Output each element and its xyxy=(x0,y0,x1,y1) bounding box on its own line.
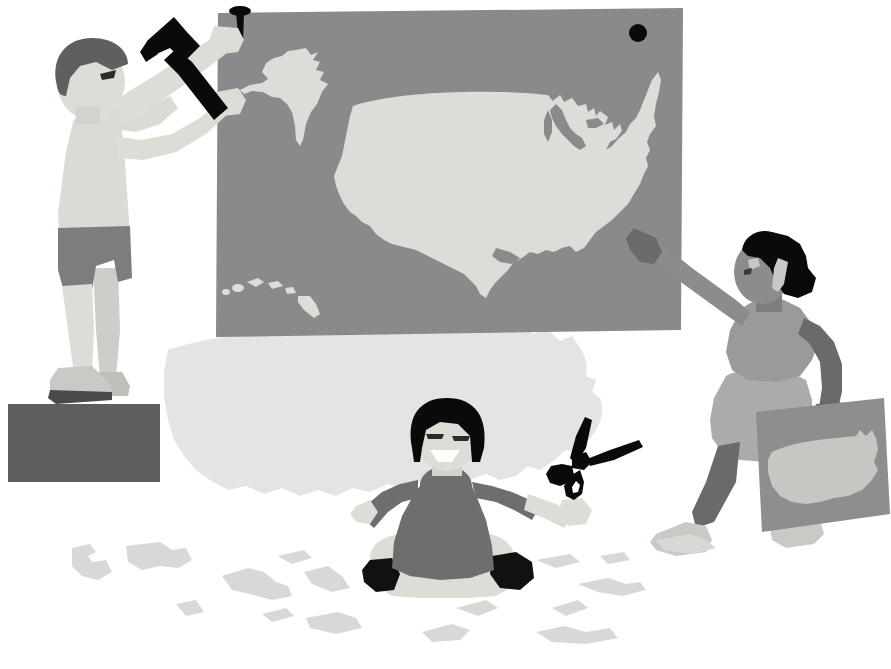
step-stool-block[interactable] xyxy=(8,404,160,482)
boy-neck xyxy=(76,106,100,124)
girl-center-left-eye xyxy=(426,434,444,439)
girl-center-right-eye xyxy=(452,436,470,441)
usa-map-poster[interactable] xyxy=(216,6,683,337)
held-map-card[interactable] xyxy=(756,398,890,532)
pin-dot[interactable] xyxy=(629,24,647,42)
illustration-canvas: Children hanging a United States map pos… xyxy=(0,0,891,669)
